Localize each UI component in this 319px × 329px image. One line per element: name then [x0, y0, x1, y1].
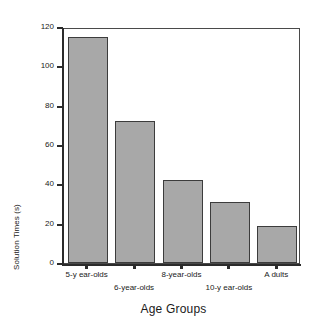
- x-axis-tick-label: 5-y ear-olds: [47, 270, 127, 279]
- y-axis-tick-label: 120: [28, 23, 54, 31]
- y-axis-tick: [57, 106, 63, 108]
- x-axis-tick: [85, 265, 88, 269]
- y-axis-tick-label: 80: [28, 102, 54, 110]
- bar: [68, 37, 108, 263]
- y-axis-tick-label: 60: [28, 141, 54, 149]
- plot-area: [63, 28, 300, 264]
- x-axis-tick-label: 6-year-olds: [94, 283, 174, 292]
- x-axis-tick-label: 10-y ear-olds: [189, 283, 269, 292]
- bar: [115, 121, 155, 263]
- bar: [257, 226, 297, 263]
- bar: [163, 180, 203, 263]
- x-axis-tick-label: 8-year-olds: [142, 270, 222, 279]
- y-axis-tick-label: 20: [28, 220, 54, 228]
- x-axis-tick: [133, 265, 136, 269]
- y-axis-tick-label: 100: [28, 62, 54, 70]
- y-axis-tick: [57, 184, 63, 186]
- x-axis-tick: [227, 265, 230, 269]
- bar: [210, 202, 250, 263]
- y-axis-tick: [57, 66, 63, 68]
- bar-chart-figure: 020406080100120 Solution Times (s) 5-y e…: [0, 0, 319, 329]
- y-axis-tick-label: 0: [28, 259, 54, 267]
- x-axis-title: Age Groups: [0, 302, 319, 316]
- bars-layer: [64, 29, 299, 263]
- y-axis-tick-label: 40: [28, 180, 54, 188]
- y-axis-title-text: Solution Times (s): [12, 140, 21, 270]
- y-axis-title: Solution Times (s): [12, 10, 21, 140]
- y-axis-tick: [57, 27, 63, 29]
- x-axis-tick: [275, 265, 278, 269]
- x-axis-tick-label: A dults: [236, 270, 316, 279]
- y-axis-tick: [57, 224, 63, 226]
- y-axis-tick: [57, 145, 63, 147]
- x-axis-tick: [180, 265, 183, 269]
